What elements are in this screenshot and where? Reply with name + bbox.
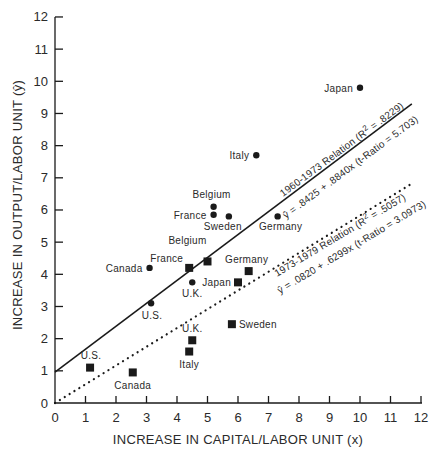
square-marker-france [185, 264, 193, 272]
y-tick-label: 11 [35, 42, 49, 57]
circle-marker-sweden [226, 213, 232, 219]
y-tick-label: 6 [41, 202, 48, 217]
point-label-sweden: Sweden [204, 221, 242, 232]
point-label-uk: U.K. [182, 288, 203, 299]
x-tick-label: 4 [173, 410, 180, 425]
square-marker-germany [245, 267, 253, 275]
y-tick-label: 9 [41, 106, 48, 121]
y-tick-label: 3 [41, 299, 48, 314]
point-label-japan: Japan [324, 83, 353, 94]
x-tick-label: 3 [143, 410, 150, 425]
point-label-us: U.S. [81, 350, 102, 361]
y-axis-title: INCREASE IN OUTPUT/LABOR UNIT (ŷ) [10, 80, 25, 330]
point-label-us: U.S. [142, 310, 163, 321]
scatter-chart: 0123456789101112 0123456789101112 INCREA… [0, 0, 435, 459]
fit-line-1973-1979 [55, 183, 413, 403]
square-marker-uk [188, 336, 196, 344]
x-axis-title: INCREASE IN CAPITAL/LABOR UNIT (x) [113, 432, 363, 447]
x-axis-ticks: 0123456789101112 [51, 396, 428, 425]
x-tick-label: 9 [326, 410, 333, 425]
y-tick-label: 7 [41, 170, 48, 185]
y-tick-label: 10 [34, 74, 48, 89]
point-label-germany: Germany [259, 221, 302, 232]
y-tick-label: 4 [41, 267, 48, 282]
point-label-canada: Canada [114, 380, 151, 391]
point-label-japan: Japan [202, 277, 231, 288]
point-label-france: France [150, 253, 183, 264]
square-marker-us [86, 364, 94, 372]
circle-marker-japan [357, 85, 363, 91]
x-tick-label: 5 [204, 410, 211, 425]
square-marker-japan [234, 278, 242, 286]
y-tick-label: 8 [41, 138, 48, 153]
x-tick-label: 11 [384, 410, 398, 425]
x-tick-label: 1 [82, 410, 89, 425]
circle-marker-germany [274, 213, 280, 219]
x-tick-label: 7 [265, 410, 272, 425]
point-label-italy: Italy [179, 359, 199, 370]
square-marker-belgium [204, 257, 212, 265]
x-tick-label: 6 [234, 410, 241, 425]
axes [54, 17, 422, 404]
point-label-uk: U.K. [182, 323, 203, 334]
square-marker-canada [129, 368, 137, 376]
x-tick-label: 8 [295, 410, 302, 425]
circle-marker-belgium [210, 204, 216, 210]
circle-marker-italy [253, 152, 259, 158]
y-axis-ticks: 0123456789101112 [34, 9, 63, 410]
point-label-france: France [174, 210, 207, 221]
x-tick-label: 10 [353, 410, 367, 425]
point-label-sweden: Sweden [239, 319, 277, 330]
x-tick-label: 12 [414, 410, 428, 425]
relation-1973-1979-equation: ŷ = .0820 + .6299x (t-Ratio = 3.0973) [275, 198, 427, 296]
square-marker-italy [185, 348, 193, 356]
square-marker-sweden [228, 320, 236, 328]
y-tick-label: 0 [41, 396, 48, 411]
y-tick-label: 1 [41, 363, 48, 378]
circle-marker-france [210, 212, 216, 218]
data-points: JapanItalyBelgiumFranceSwedenGermanyCana… [81, 83, 363, 392]
point-label-belgium: Belgium [192, 189, 230, 200]
circle-marker-uk [189, 279, 195, 285]
y-tick-label: 12 [34, 9, 48, 24]
y-tick-label: 5 [41, 235, 48, 250]
circle-marker-canada [146, 265, 152, 271]
point-label-germany: Germany [225, 254, 268, 265]
circle-marker-us [148, 300, 154, 306]
point-label-canada: Canada [106, 263, 143, 274]
point-label-belgium: Belgium [168, 235, 206, 246]
y-tick-label: 2 [41, 331, 48, 346]
relation-1960-1973-label: 1960-1973 Relation (R2 = .8229) [276, 98, 405, 198]
x-tick-label: 2 [112, 410, 119, 425]
point-label-italy: Italy [229, 150, 249, 161]
x-tick-label: 0 [51, 410, 58, 425]
